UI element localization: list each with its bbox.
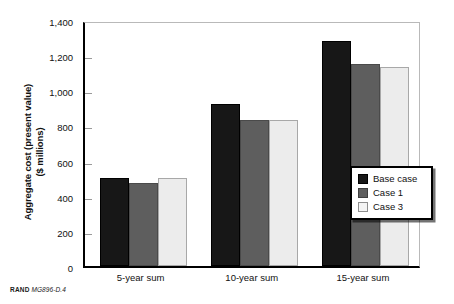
bar	[158, 178, 187, 266]
bar	[351, 64, 380, 266]
y-axis-tick-label: 200	[57, 227, 73, 238]
bar-group	[88, 23, 199, 266]
y-axis-tick-label: 400	[57, 192, 73, 203]
bar	[322, 41, 351, 266]
legend-swatch-icon	[358, 202, 368, 212]
x-axis-tick-label: 10-year sum	[225, 272, 278, 283]
x-axis-tick-label: 15-year sum	[337, 272, 390, 283]
y-axis-tick-label: 1,200	[49, 52, 73, 63]
y-axis-tick-label: 600	[57, 157, 73, 168]
legend-item-label: Case 3	[373, 201, 403, 212]
bar-group	[310, 23, 421, 266]
figure-container: Aggregate cost (present value) ($ millio…	[0, 0, 454, 304]
legend-item: Base case	[358, 173, 425, 184]
y-axis-tick-label: 1,000	[49, 87, 73, 98]
credit-figure-id: MG896-D.4	[31, 286, 66, 293]
bar-groups	[88, 23, 419, 266]
x-axis-tick-label: 5-year sum	[117, 272, 165, 283]
chart-legend: Base caseCase 1Case 3	[350, 166, 433, 220]
bar-group	[199, 23, 310, 266]
y-axis-tick-label: 800	[57, 122, 73, 133]
bar	[211, 104, 240, 266]
legend-swatch-icon	[358, 174, 368, 184]
y-axis-tick-label: 1,400	[49, 17, 73, 28]
y-axis-tick-label: 0	[68, 263, 73, 274]
bar	[100, 178, 129, 266]
legend-item: Case 1	[358, 187, 425, 198]
legend-item-label: Case 1	[373, 187, 403, 198]
legend-swatch-icon	[358, 188, 368, 198]
x-axis-tick-labels: 5-year sum10-year sum15-year sum	[83, 272, 420, 288]
bar	[129, 183, 158, 266]
legend-item-label: Base case	[373, 173, 417, 184]
plot-area	[83, 22, 420, 268]
legend-item: Case 3	[358, 201, 425, 212]
bar	[240, 120, 269, 266]
y-axis-tick-labels: 1,4001,2001,0008006004002000	[0, 22, 78, 268]
credit-brand: RAND	[10, 286, 30, 293]
figure-credit: RAND MG896-D.4	[10, 286, 66, 293]
bar	[269, 120, 298, 266]
